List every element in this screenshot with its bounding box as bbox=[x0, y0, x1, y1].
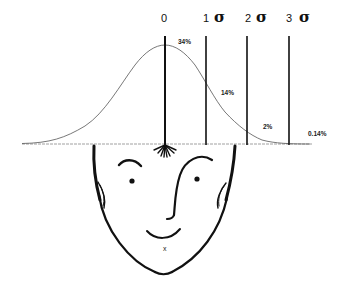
hair-tuft bbox=[154, 145, 176, 157]
sigma-symbol-3: σ bbox=[299, 8, 310, 26]
tick-label-2: 2 bbox=[245, 12, 251, 24]
normal-distribution-illustration: 0 1 σ 2 σ 3 σ 34% 14% 2% 0.14% x bbox=[0, 0, 343, 290]
left-eye bbox=[129, 178, 134, 183]
face-drawing bbox=[94, 145, 235, 274]
tick-label-3: 3 bbox=[286, 12, 292, 24]
sigma-symbol-2: σ bbox=[256, 8, 267, 26]
chart-svg bbox=[0, 0, 343, 290]
right-eye bbox=[194, 176, 199, 181]
chin-mark: x bbox=[163, 245, 167, 252]
tick-label-0: 0 bbox=[161, 12, 167, 24]
sigma-symbol-1: σ bbox=[214, 8, 225, 26]
tick-label-1: 1 bbox=[203, 12, 209, 24]
percent-0-14: 0.14% bbox=[308, 130, 326, 137]
percent-34: 34% bbox=[178, 38, 191, 45]
percent-14: 14% bbox=[221, 89, 234, 96]
percent-2: 2% bbox=[263, 123, 272, 130]
